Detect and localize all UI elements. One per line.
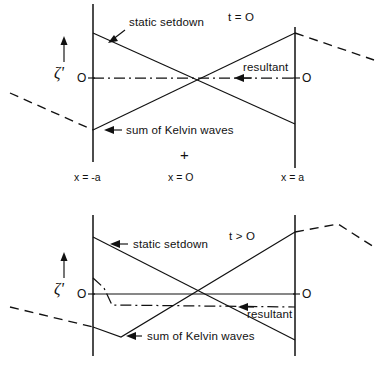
figure-root: static setdown resultant sum of Kelvin w… — [0, 0, 382, 365]
exterior-dashed-right-top-panel — [295, 33, 374, 60]
x-label-center: x = O — [168, 171, 193, 183]
sum-of-kelvin-waves-label-bottom-panel: sum of Kelvin waves — [147, 330, 255, 342]
sum-of-kelvin-waves-line-top-panel — [93, 33, 295, 130]
static-setdown-label-top-panel: static setdown — [129, 16, 204, 28]
resultant-label-top-panel: resultant — [243, 61, 289, 73]
zeta-axis-label-bottom-panel: ζ' — [54, 280, 64, 298]
time-label-top-panel: t = O — [228, 11, 254, 23]
exterior-dashed-left-top-panel — [10, 93, 93, 130]
exterior-dashed-left-bottom-panel — [10, 307, 93, 327]
static-setdown-line-bottom-panel — [93, 237, 295, 340]
exterior-dashed-right-bottom-panel — [295, 224, 374, 247]
time-label-bottom-panel: t > O — [229, 230, 255, 242]
origin-label-left-top-panel: O — [77, 71, 86, 85]
sum-of-kelvin-waves-label-top-panel: sum of Kelvin waves — [126, 124, 234, 136]
figure-canvas: static setdown resultant sum of Kelvin w… — [0, 0, 382, 365]
sum-of-kelvin-waves-leader-arrow-top-panel — [104, 126, 114, 134]
static-setdown-label-bottom-panel: static setdown — [133, 238, 208, 250]
origin-label-right-bottom-panel: O — [302, 287, 311, 301]
panel-top: static setdown resultant sum of Kelvin w… — [10, 4, 374, 168]
origin-label-left-bottom-panel: O — [77, 287, 86, 301]
resultant-label-bottom-panel: resultant — [247, 308, 293, 320]
zeta-axis-label-top-panel: ζ' — [54, 64, 64, 82]
panel-bottom: static setdown resultant sum of Kelvin w… — [10, 215, 374, 356]
resultant-leader-arrow-top-panel — [234, 74, 244, 82]
origin-label-right-top-panel: O — [302, 71, 311, 85]
x-label-right: x = a — [281, 171, 304, 183]
zeta-axis-arrow-head-bottom-panel — [61, 252, 68, 261]
x-label-left: x = -a — [74, 171, 101, 183]
x-station-labels: + x = -a x = O x = a — [74, 146, 304, 183]
plus-separator: + — [180, 146, 189, 163]
zeta-axis-arrow-head-top-panel — [61, 36, 68, 45]
